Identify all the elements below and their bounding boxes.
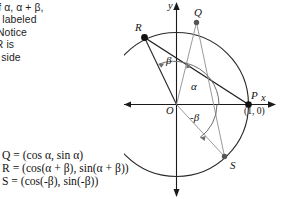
y-axis-arrowhead-down [174, 189, 180, 197]
angle-label-neg-beta: -β [190, 112, 199, 123]
radius-O-S [177, 105, 225, 157]
point-label-R: R [135, 22, 142, 33]
x-axis-label: x [261, 93, 266, 104]
body-line: s of α, α + β, [0, 2, 134, 14]
figure-root: s of α, α + β, are labeled ly. Notice of… [0, 0, 283, 199]
point-marker-Q [194, 20, 199, 25]
x-axis-arrowhead-left [124, 102, 131, 108]
body-paragraph: s of α, α + β, are labeled ly. Notice of… [0, 2, 134, 76]
angle-label-beta: β [166, 55, 171, 66]
angle-label-alpha: α [191, 81, 197, 92]
point-marker-S [222, 154, 227, 159]
y-axis-arrowhead [173, 2, 179, 10]
y-axis-label: y [168, 1, 173, 12]
x-axis-arrowhead [268, 101, 276, 107]
point-label-S: S [230, 160, 236, 171]
angle-arc-beta-arrowhead [159, 64, 165, 68]
diagram-canvas [124, 0, 283, 199]
point-coord-P: (1, 0) [244, 106, 265, 116]
unit-circle-diagram: y x O P (1, 0) Q R S β α -β [124, 0, 283, 199]
angle-arcs-group [159, 61, 220, 141]
body-line: left side [0, 52, 134, 64]
origin-label: O [166, 106, 174, 117]
body-line: . [0, 64, 134, 76]
body-line: ly. Notice [0, 27, 134, 39]
point-label-Q: Q [194, 7, 202, 18]
body-line: of R is [0, 39, 134, 51]
point-marker-R [141, 34, 148, 41]
point-label-P: P [251, 90, 258, 101]
body-line: are labeled [0, 14, 134, 26]
